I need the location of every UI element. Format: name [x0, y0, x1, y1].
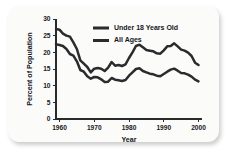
y-tick-label: 30 [43, 15, 51, 22]
x-tick-label: 1970 [87, 124, 102, 131]
y-tick-label: 0 [47, 115, 51, 122]
y-axis-title: Percent of Population [26, 32, 34, 105]
chart-legend: Under 18 Years OldAll Ages [93, 24, 178, 45]
legend-label-2: All Ages [114, 36, 142, 44]
y-tick-label: 15 [43, 65, 51, 72]
y-tick-label: 25 [43, 32, 51, 39]
line-chart: 051015202530 19601970198019902000 Percen… [8, 6, 219, 142]
y-tick-label: 10 [43, 82, 51, 89]
x-axis-title: Year [122, 136, 137, 142]
x-axis: 19601970198019902000 [52, 119, 206, 131]
x-tick-label: 1990 [156, 124, 171, 131]
x-tick-label: 1980 [122, 124, 137, 131]
x-tick-label: 2000 [191, 124, 206, 131]
y-tick-label: 20 [43, 49, 51, 56]
legend-label-1: Under 18 Years Old [114, 24, 178, 31]
y-axis: 051015202530 [43, 15, 56, 122]
x-tick-label: 1960 [52, 124, 67, 131]
chart-card: 051015202530 19601970198019902000 Percen… [8, 6, 219, 142]
y-tick-label: 5 [47, 99, 51, 106]
